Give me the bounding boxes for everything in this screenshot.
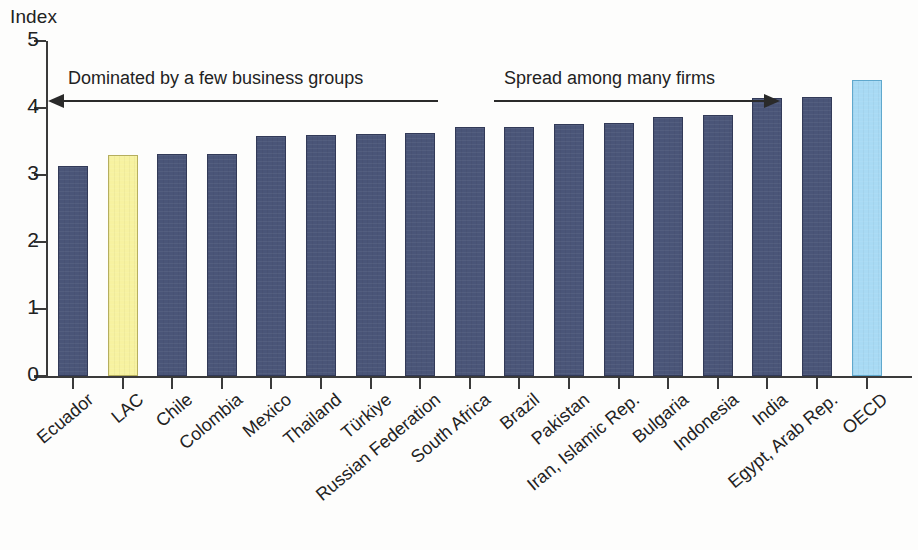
x-tick-mark: [618, 378, 620, 389]
bar-iran-islamic-rep: [604, 123, 634, 376]
x-tick-mark: [469, 378, 471, 389]
x-label-oecd: OECD: [839, 390, 890, 437]
x-label-indonesia: Indonesia: [670, 390, 741, 454]
bar-ecuador: [58, 166, 88, 376]
y-tick-label: 3: [27, 162, 39, 183]
y-tick-label: 2: [27, 229, 39, 250]
x-label-brazil: Brazil: [497, 390, 543, 433]
annotation-spread-among-many-label: Spread among many firms: [504, 68, 715, 89]
annotation-dominated-by-few-label: Dominated by a few business groups: [68, 68, 363, 89]
x-label-bulgaria: Bulgaria: [630, 390, 692, 446]
y-tick-label: 0: [27, 363, 39, 384]
bar-thailand: [306, 135, 336, 376]
x-label-iran-islamic-rep: Iran, Islamic Rep.: [523, 390, 642, 494]
x-label-russian-federation: Russian Federation: [313, 390, 444, 504]
bar-egypt-arab-rep: [802, 97, 832, 376]
x-label-thailand: Thailand: [280, 390, 344, 448]
x-label-chile: Chile: [153, 390, 196, 430]
x-tick-mark: [518, 378, 520, 389]
plot-area: 012345 Dominated by a few business group…: [46, 41, 912, 376]
x-tick-mark: [419, 378, 421, 389]
x-label-pakistan: Pakistan: [528, 390, 592, 448]
bar-bulgaria: [653, 117, 683, 376]
x-tick-mark: [72, 378, 74, 389]
x-tick-mark: [370, 378, 372, 389]
x-tick-mark: [667, 378, 669, 389]
bar-south-africa: [455, 127, 485, 376]
y-tick-label: 1: [27, 296, 39, 317]
bar-chile: [157, 154, 187, 376]
annotation-spread-arrow-line: [494, 100, 766, 102]
x-label-south-africa: South Africa: [407, 390, 493, 466]
x-label-colombia: Colombia: [176, 390, 246, 453]
bar-india: [752, 98, 782, 376]
x-tick-mark: [717, 378, 719, 389]
x-tick-mark: [122, 378, 124, 389]
y-tick-label: 4: [27, 95, 39, 116]
bar-russian-federation: [405, 133, 435, 376]
x-label-india: India: [749, 390, 790, 429]
x-tick-mark: [766, 378, 768, 389]
x-label-egypt-arab-rep: Egypt, Arab Rep.: [725, 390, 841, 491]
x-tick-mark: [816, 378, 818, 389]
annotation-dominated-arrow-line: [58, 100, 438, 102]
bar-indonesia: [703, 115, 733, 376]
x-tick-mark: [221, 378, 223, 389]
x-tick-mark: [568, 378, 570, 389]
x-tick-mark: [270, 378, 272, 389]
x-tick-mark: [866, 378, 868, 389]
bar-brazil: [504, 127, 534, 376]
x-tick-mark: [320, 378, 322, 389]
x-label-ecuador: Ecuador: [34, 390, 97, 447]
annotation-spread-arrow-head-icon: [764, 94, 780, 108]
bar-oecd: [852, 80, 882, 376]
bar-lac: [108, 155, 138, 376]
y-axis-line: [46, 41, 48, 376]
bar-colombia: [207, 154, 237, 376]
chart-figure: Index 012345 Dominated by a few business…: [0, 0, 918, 550]
x-label-lac: LAC: [108, 390, 146, 426]
x-label-mexico: Mexico: [240, 390, 295, 440]
x-label-t-rkiye: Türkiye: [337, 390, 394, 442]
bar-t-rkiye: [356, 134, 386, 376]
annotation-dominated-arrow-head-icon: [48, 94, 64, 108]
bar-mexico: [256, 136, 286, 376]
y-axis-title: Index: [10, 6, 57, 28]
x-axis-line: [34, 376, 912, 378]
y-tick-label: 5: [27, 28, 39, 49]
x-tick-mark: [171, 378, 173, 389]
bar-pakistan: [554, 124, 584, 376]
